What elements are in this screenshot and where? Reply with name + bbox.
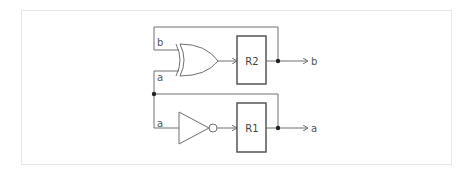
junction-dot-b bbox=[276, 59, 280, 63]
register-r2: R2 bbox=[237, 36, 266, 84]
xor-input-label-a: a bbox=[157, 72, 163, 83]
junction-dot-a bbox=[276, 126, 280, 130]
not-gate-icon bbox=[179, 112, 217, 144]
junction-dot-a-left bbox=[152, 92, 156, 96]
xor-gate-icon bbox=[176, 44, 218, 76]
register-r1: R1 bbox=[237, 103, 266, 152]
register-r1-label: R1 bbox=[245, 123, 258, 134]
output-label-a: a bbox=[311, 123, 317, 134]
circuit-diagram: R2 b b a a R1 a bbox=[0, 0, 469, 174]
register-r2-label: R2 bbox=[245, 56, 258, 67]
output-label-b: b bbox=[311, 56, 317, 67]
not-input-label-a: a bbox=[157, 118, 163, 129]
xor-input-label-b: b bbox=[157, 37, 163, 48]
